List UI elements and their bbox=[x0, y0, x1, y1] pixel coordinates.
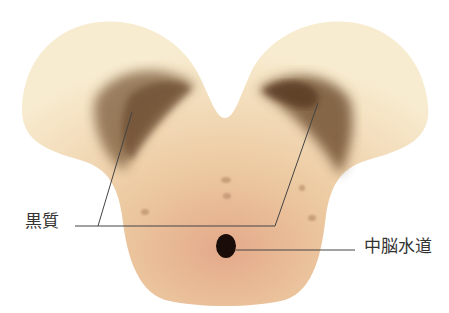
cerebral-aqueduct bbox=[216, 234, 236, 258]
label-substantia-nigra: 黒質 bbox=[25, 207, 59, 232]
label-cerebral-aqueduct: 中脳水道 bbox=[364, 232, 432, 257]
midbrain-diagram: 黒質 中脳水道 bbox=[0, 0, 449, 313]
midbrain-outline bbox=[22, 21, 428, 306]
midbrain-illustration bbox=[0, 0, 449, 313]
